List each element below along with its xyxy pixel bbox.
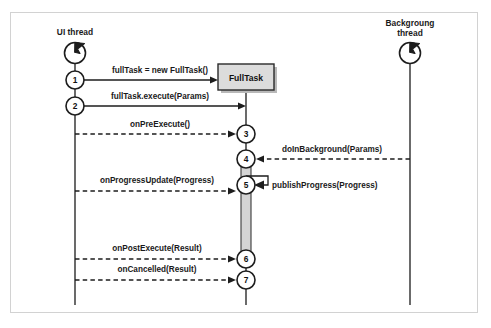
step-badge-1-number: 1 [73, 75, 78, 85]
step-badge-7-number: 7 [244, 275, 249, 285]
message-7-arrowhead [228, 277, 236, 284]
lifeline-label-background-thread-line2: thread [397, 28, 423, 38]
message-3-label: onPreExecute() [130, 120, 190, 129]
actor-background-thread: Backgroung thread [386, 18, 435, 64]
message-6-label: onPostExecute(Result) [112, 244, 202, 253]
lifeline-label-background-thread-line1: Backgroung [386, 18, 435, 28]
step-badge-5-number: 5 [244, 180, 249, 190]
message-2-label: fullTask.execute(Params) [111, 92, 209, 101]
message-1-label: fullTask = new FullTask() [112, 66, 208, 75]
step-badge-7[interactable]: 7 [237, 271, 255, 289]
message-7-label: onCancelled(Result) [117, 265, 196, 274]
message-5b-label: publishProgress(Progress) [272, 181, 378, 190]
message-4-doinbackground: doInBackground(Params) [256, 145, 410, 162]
step-badge-5[interactable]: 5 [237, 176, 255, 194]
message-5-label: onProgressUpdate(Progress) [100, 176, 214, 185]
step-badge-2[interactable]: 2 [66, 97, 84, 115]
message-2-execute: fullTask.execute(Params) [75, 92, 246, 109]
diagram-canvas: UI thread Backgroung thread FullTask ful… [0, 0, 491, 328]
step-badge-6-number: 6 [244, 254, 249, 264]
message-5b-publishprogress: publishProgress(Progress) [246, 176, 378, 190]
message-2-arrowhead [238, 103, 246, 110]
step-badge-6[interactable]: 6 [237, 250, 255, 268]
object-box-fulltask[interactable]: FullTask [218, 64, 277, 93]
step-badge-3[interactable]: 3 [237, 125, 255, 143]
step-badge-2-number: 2 [73, 101, 78, 111]
message-1-arrowhead [210, 77, 218, 84]
step-badge-4[interactable]: 4 [237, 150, 255, 168]
step-badge-3-number: 3 [244, 129, 249, 139]
message-4-arrowhead [256, 156, 264, 163]
step-badge-4-number: 4 [244, 154, 249, 164]
sequence-diagram-svg: UI thread Backgroung thread FullTask ful… [0, 0, 491, 328]
message-5-onprogressupdate: onProgressUpdate(Progress) [75, 176, 236, 194]
message-7-oncancelled: onCancelled(Result) [75, 265, 236, 283]
message-4-label: doInBackground(Params) [282, 145, 382, 154]
activation-bar-fulltask [241, 158, 251, 258]
message-1-new-fulltask: fullTask = new FullTask() [75, 66, 218, 83]
message-3-onpreexecute: onPreExecute() [75, 120, 236, 137]
message-5-arrowhead [228, 188, 236, 195]
message-6-arrowhead [228, 256, 236, 263]
object-box-fulltask-label: FullTask [229, 73, 263, 83]
message-6-onpostexecute: onPostExecute(Result) [75, 244, 236, 262]
message-3-arrowhead [228, 131, 236, 138]
lifeline-label-ui-thread: UI thread [57, 27, 93, 37]
step-badge-1[interactable]: 1 [66, 71, 84, 89]
actor-ui-thread: UI thread [57, 27, 93, 64]
